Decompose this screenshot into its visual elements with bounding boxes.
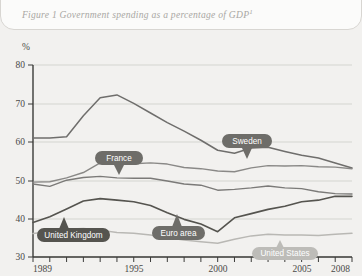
- callout-france-label: France: [106, 154, 132, 163]
- y-tick-50: 50: [16, 176, 26, 186]
- callout-uk-label: United Kingdom: [44, 231, 102, 240]
- callout-euro-label: Euro area: [161, 229, 197, 238]
- y-tick-30: 30: [16, 252, 26, 262]
- x-tick-2000: 2000: [209, 264, 228, 274]
- y-tick-70: 70: [16, 99, 26, 109]
- chart-plot-area: % 80 70 60 50 40 30 1989 1995 2000 2005 …: [0, 34, 362, 276]
- y-axis-unit-label: %: [22, 42, 30, 52]
- series-line-euro-area: [33, 176, 352, 194]
- callout-france-pointer: [114, 165, 124, 175]
- y-tick-40: 40: [16, 214, 26, 224]
- series-line-sweden: [33, 95, 352, 168]
- y-tick-80: 80: [16, 60, 26, 70]
- x-tick-2008: 2008: [331, 264, 350, 274]
- callout-sweden: Sweden: [222, 134, 272, 159]
- x-tick-2005: 2005: [293, 264, 312, 274]
- callout-france: France: [95, 151, 143, 175]
- x-tick-1995: 1995: [125, 264, 144, 274]
- figure-title: Figure 1 Government spending as a percen…: [22, 8, 253, 20]
- line-chart-svg: % 80 70 60 50 40 30 1989 1995 2000 2005 …: [0, 34, 362, 276]
- figure-title-text: Figure 1 Government spending as a percen…: [22, 9, 249, 20]
- series-line-france: [33, 163, 352, 182]
- callout-us-label: United States: [260, 249, 309, 258]
- callout-united-states: United States: [252, 240, 318, 260]
- figure-footnote-marker: 1: [249, 8, 253, 16]
- x-tick-1989: 1989: [33, 264, 52, 274]
- callout-united-kingdom: United Kingdom: [37, 217, 110, 242]
- series-lines: [33, 95, 352, 243]
- callout-sweden-label: Sweden: [232, 137, 262, 146]
- callout-us-pointer: [276, 240, 284, 248]
- callout-sweden-pointer: [242, 148, 252, 159]
- y-tick-60: 60: [16, 137, 26, 147]
- y-axis: 80 70 60 50 40 30: [16, 60, 34, 262]
